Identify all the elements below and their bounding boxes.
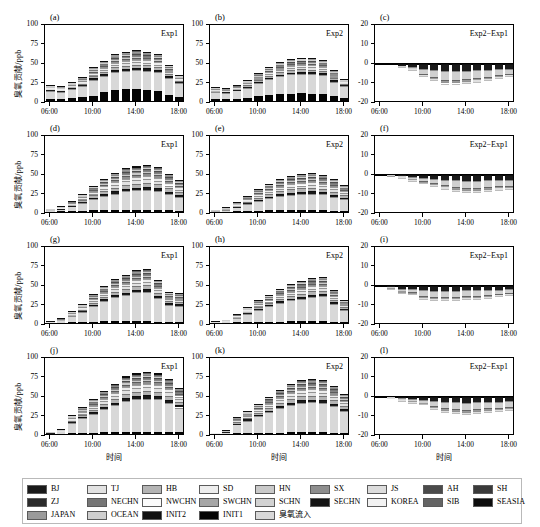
bar-segment (287, 285, 295, 286)
bar (211, 321, 219, 323)
y-tick-mark (371, 154, 375, 155)
legend-swatch-臭氧流入 (255, 511, 275, 520)
bar-segment (265, 186, 273, 187)
legend-item-KOREA[interactable]: KOREA (367, 498, 419, 507)
bar-segment (143, 373, 151, 374)
bar-segment (243, 201, 251, 202)
bar-segment (154, 61, 162, 63)
bar-segment (68, 85, 76, 86)
bar-segment (495, 411, 503, 412)
bar-segment (143, 71, 151, 91)
legend-item-BJ[interactable]: BJ (27, 485, 59, 494)
bar-segment (132, 396, 140, 399)
bar-segment (319, 61, 327, 62)
y-tick-mark (371, 324, 375, 325)
bar-segment (122, 185, 130, 189)
y-tick-mark (371, 396, 375, 397)
x-tick-label: 10:00 (74, 108, 110, 115)
bar-segment (132, 270, 140, 271)
legend-item-OCEAN[interactable]: OCEAN (87, 511, 139, 520)
bar-segment (308, 380, 316, 381)
bar-segment (111, 63, 119, 65)
bar-segment (122, 381, 130, 383)
bar-segment (143, 183, 151, 187)
bar-segment (100, 189, 108, 191)
bar-segment (243, 418, 251, 420)
bar-segment (308, 182, 316, 185)
legend-item-JAPAN[interactable]: JAPAN (27, 511, 75, 520)
bar-segment (254, 409, 262, 411)
y-tick-mark (206, 174, 210, 175)
legend-item-NECHN[interactable]: NECHN (87, 498, 139, 507)
bar-segment (122, 176, 130, 178)
bar-segment (254, 404, 262, 405)
bar-segment (165, 179, 173, 181)
bar-segment (132, 321, 140, 323)
legend-item-JS[interactable]: JS (367, 485, 399, 494)
bar-segment (297, 299, 305, 322)
legend-item-HB[interactable]: HB (142, 485, 177, 494)
bar-segment (254, 413, 262, 415)
legend-item-SCHN[interactable]: SCHN (255, 498, 300, 507)
bar-segment (122, 61, 130, 63)
bar-segment (308, 67, 316, 69)
legend-item-AH[interactable]: AH (423, 485, 459, 494)
bar-segment (111, 297, 119, 321)
legend-label-SX: SX (334, 485, 344, 493)
legend-item-HN[interactable]: HN (255, 485, 291, 494)
legend-item-INIT1[interactable]: INIT1 (199, 511, 243, 520)
bar-segment (122, 376, 130, 377)
bar-segment (222, 90, 230, 91)
bar-segment (254, 190, 262, 191)
legend-item-SH[interactable]: SH (473, 485, 507, 494)
bar-segment (276, 392, 284, 393)
bar-segment (287, 60, 295, 61)
bar-segment (254, 74, 262, 75)
legend-item-NWCHN[interactable]: NWCHN (142, 498, 196, 507)
bar-segment (132, 375, 140, 376)
bar-segment (143, 54, 151, 55)
y-tick-label: 20 (344, 242, 368, 250)
bar (287, 284, 295, 323)
bar-segment (132, 392, 140, 397)
bar-segment (165, 176, 173, 177)
legend-item-SECHN[interactable]: SECHN (310, 498, 360, 507)
bar-segment (89, 322, 97, 323)
y-tick-label: 75 (14, 40, 38, 48)
bar-segment (340, 400, 348, 402)
y-tick-mark (371, 82, 375, 83)
bar-segment (452, 191, 460, 192)
bar (265, 184, 273, 212)
y-tick-label: 100 (179, 20, 203, 28)
bar (408, 64, 416, 70)
bar-segment (68, 83, 76, 84)
bar-segment (441, 412, 449, 413)
panel-tag-j: (j) (50, 346, 58, 355)
bar-segment (243, 82, 251, 83)
legend-item-ZJ[interactable]: ZJ (27, 498, 59, 507)
x-tick-label: 18:00 (326, 219, 362, 226)
bar-segment (319, 69, 327, 71)
legend-item-SWCHN[interactable]: SWCHN (199, 498, 252, 507)
bar-segment (111, 175, 119, 176)
legend-item-SD[interactable]: SD (199, 485, 233, 494)
legend-item-SEASIA[interactable]: SEASIA (473, 498, 525, 507)
legend-item-SX[interactable]: SX (310, 485, 344, 494)
legend-item-INIT2[interactable]: INIT2 (142, 511, 186, 520)
legend-label-TJ: TJ (111, 485, 119, 493)
legend-item-TJ[interactable]: TJ (87, 485, 119, 494)
bar-segment (297, 400, 305, 403)
bar (57, 206, 65, 212)
legend-item-SIB[interactable]: SIB (423, 498, 459, 507)
legend-item-臭氧流入[interactable]: 臭氧流入 (255, 511, 311, 520)
bar-segment (308, 321, 316, 323)
bar (505, 64, 513, 77)
bar-segment (473, 181, 481, 188)
bar-segment (78, 198, 86, 199)
bar-segment (340, 185, 348, 186)
bar-segment (68, 203, 76, 204)
bar-segment (319, 176, 327, 177)
bar-segment (165, 175, 173, 176)
y-tick-label: 100 (179, 353, 203, 361)
bar-segment (330, 71, 338, 72)
